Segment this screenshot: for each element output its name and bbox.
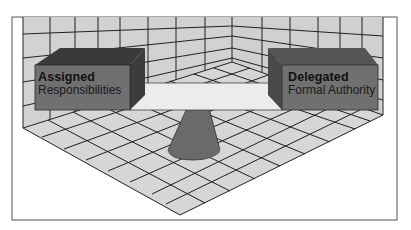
left-box	[35, 48, 145, 110]
right-box	[268, 48, 378, 110]
plank	[130, 83, 282, 110]
balance-illustration: Assigned Responsibilities Delegated Form…	[0, 0, 411, 230]
illustration-canvas	[0, 0, 411, 230]
